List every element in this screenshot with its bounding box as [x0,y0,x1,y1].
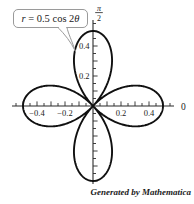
x-tick-label: 0.2 [116,108,127,118]
pi-numerator: π [97,4,102,13]
y-tick-label: 0.2 [79,71,90,81]
credit-text: Generated by Mathematica [91,187,192,197]
x-tick-label: −0.2 [57,108,72,118]
callout-tail-icon [58,28,76,52]
x-tick-label: 0.4 [144,108,155,118]
figure-svg: −0.4−0.20.20.40.20.4 π 2 0 r = 0.5 cos 2… [0,0,194,204]
theta-zero-label: 0 [181,102,186,112]
pi-over-2-label: π 2 [95,4,103,23]
y-tick-label: 0.4 [79,41,90,51]
axes [12,20,174,184]
x-tick-label: −0.4 [29,108,45,118]
pi-denominator: 2 [97,14,101,23]
callout-equation: r = 0.5 cos 2θ [21,13,79,24]
mathematica-polar-figure: −0.4−0.20.20.40.20.4 π 2 0 r = 0.5 cos 2… [0,0,194,204]
